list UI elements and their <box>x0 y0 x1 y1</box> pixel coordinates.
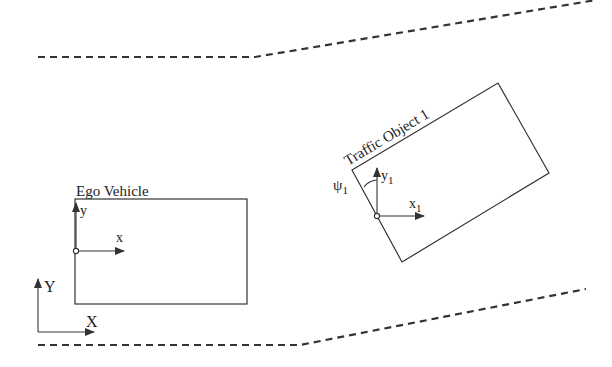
ego-y-axis-label: y <box>80 203 87 218</box>
global-frame: Y X <box>38 278 98 332</box>
ego-x-axis-label: x <box>116 230 123 245</box>
road-upper-boundary <box>38 0 596 57</box>
ego-vehicle: Ego Vehicle y x <box>73 183 247 304</box>
traffic-y-axis-label: y1 <box>381 168 394 186</box>
traffic-object-1: Traffic Object 1 y1 x1 ψ1 <box>333 83 549 262</box>
global-x-axis-label: X <box>86 313 98 330</box>
ego-vehicle-label: Ego Vehicle <box>76 183 149 199</box>
yaw-angle-label: ψ1 <box>333 177 348 196</box>
traffic-object-label: Traffic Object 1 <box>341 106 432 169</box>
road-lower-boundary <box>38 289 586 345</box>
global-y-axis-label: Y <box>44 278 56 295</box>
ego-origin-marker <box>73 248 78 253</box>
traffic-x-axis-label: x1 <box>409 196 422 214</box>
diagram-canvas: Ego Vehicle y x Traffic Object 1 y1 x1 ψ… <box>0 0 612 367</box>
traffic-origin-marker <box>374 213 379 218</box>
yaw-angle-arc <box>364 180 377 187</box>
